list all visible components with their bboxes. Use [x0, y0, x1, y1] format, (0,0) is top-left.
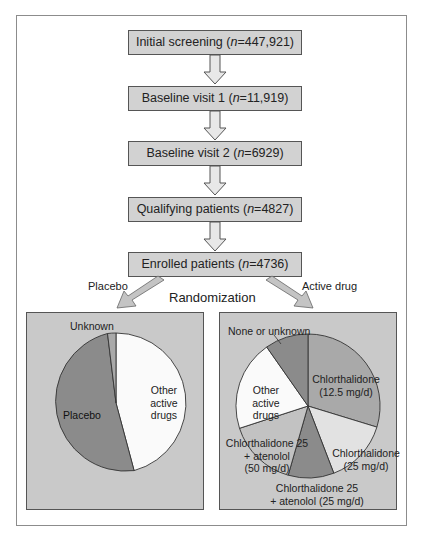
randomization-label: Randomization: [169, 290, 256, 305]
label-chlorthalidone-25: Chlorthalidone(25 mg/d): [326, 447, 406, 472]
placebo-branch-label: Placebo: [88, 280, 128, 292]
label-placebo: Placebo: [63, 409, 101, 422]
label-other-active-drugs: Otheractivedrugs: [139, 384, 189, 422]
active-drug-branch-label: Active drug: [302, 280, 357, 292]
down-arrow-icon: [204, 55, 226, 251]
label-unknown: Unknown: [70, 320, 114, 333]
label-other-active-drugs-right: Otheractivedrugs: [246, 384, 286, 422]
label-chlorthalidone-atenolol-50: Chlorthalidone 25+ atenolol(50 mg/d): [218, 437, 316, 475]
label-chlorthalidone-12-5: Chlorthalidone(12.5 mg/d): [306, 373, 386, 398]
label-chlorthalidone-atenolol-25: Chlorthalidone 25+ atenolol (25 mg/d): [262, 482, 372, 507]
label-none-or-unknown: None or unknown: [228, 325, 310, 338]
